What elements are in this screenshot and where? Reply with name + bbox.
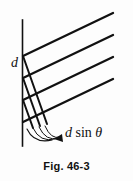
figure-caption: Fig. 46-3 <box>0 160 133 172</box>
path-difference-label: d sin θ <box>65 126 102 140</box>
wavefront-ray-2 <box>23 35 113 78</box>
wavefront-ray-group <box>23 13 113 122</box>
wavefront-ray-1 <box>23 13 113 56</box>
path-difference-theta: θ <box>95 125 102 140</box>
figure-container: d d sin θ Fig. 46-3 <box>0 0 133 181</box>
arrow-head-icon <box>54 134 63 142</box>
grating-diagram <box>0 0 133 181</box>
grating-spacing-label: d <box>11 56 18 70</box>
path-difference-var-d: d <box>65 125 72 140</box>
arrow-curve-1 <box>27 129 52 141</box>
arrow-curve-4 <box>45 126 60 138</box>
path-difference-sin: sin <box>76 125 92 140</box>
